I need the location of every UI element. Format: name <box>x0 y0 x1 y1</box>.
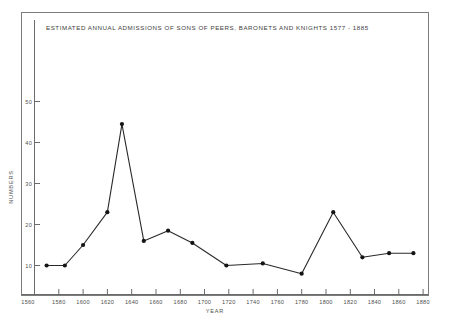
data-point <box>331 210 335 214</box>
x-tick-label-1660: 1660 <box>149 299 162 305</box>
x-tick-label-1560: 1560 <box>21 299 34 305</box>
x-axis-tick-labels: 1560 1580 1600 1620 1640 1660 1680 1700 … <box>21 299 430 305</box>
y-tick-label-30: 30 <box>25 181 32 187</box>
data-point <box>224 263 228 267</box>
x-tick-label-1760: 1760 <box>271 299 284 305</box>
data-point <box>120 122 124 126</box>
x-tick-label-1700: 1700 <box>198 299 211 305</box>
data-point <box>360 255 364 259</box>
x-tick-label-1740: 1740 <box>246 299 259 305</box>
line-chart: ESTIMATED ANNUAL ADMISSIONS OF SONS OF P… <box>0 0 450 328</box>
y-tick-label-10: 10 <box>25 263 32 269</box>
data-point <box>45 263 49 267</box>
y-tick-label-40: 40 <box>25 140 32 146</box>
data-point <box>300 272 304 276</box>
chart-frame <box>22 13 429 296</box>
x-tick-label-1640: 1640 <box>125 299 138 305</box>
data-point <box>105 210 109 214</box>
data-point <box>387 251 391 255</box>
data-point <box>190 241 194 245</box>
data-point <box>261 261 265 265</box>
x-tick-label-1620: 1620 <box>101 299 114 305</box>
data-point <box>63 263 67 267</box>
x-tick-label-1680: 1680 <box>174 299 187 305</box>
x-tick-label-1720: 1720 <box>222 299 235 305</box>
x-tick-label-1880: 1880 <box>416 299 429 305</box>
data-point <box>81 243 85 247</box>
chart-figure: ESTIMATED ANNUAL ADMISSIONS OF SONS OF P… <box>0 0 450 328</box>
y-tick-label-20: 20 <box>25 222 32 228</box>
chart-title: ESTIMATED ANNUAL ADMISSIONS OF SONS OF P… <box>46 24 369 31</box>
data-point <box>411 251 415 255</box>
data-point <box>142 239 146 243</box>
y-axis-tick-labels: 50 40 30 20 10 <box>25 99 32 269</box>
data-series-line <box>47 124 414 274</box>
x-tick-label-1800: 1800 <box>319 299 332 305</box>
y-axis-title: NUMBERS <box>8 170 14 204</box>
x-tick-label-1820: 1820 <box>344 299 357 305</box>
x-tick-label-1860: 1860 <box>392 299 405 305</box>
data-point <box>166 229 170 233</box>
y-axis-ticks <box>35 102 41 266</box>
x-axis-title: YEAR <box>206 308 224 314</box>
x-axis-ticks <box>35 289 424 295</box>
y-tick-label-50: 50 <box>25 99 32 105</box>
x-tick-label-1600: 1600 <box>76 299 89 305</box>
x-tick-label-1580: 1580 <box>52 299 65 305</box>
x-tick-label-1780: 1780 <box>295 299 308 305</box>
x-tick-label-1840: 1840 <box>368 299 381 305</box>
